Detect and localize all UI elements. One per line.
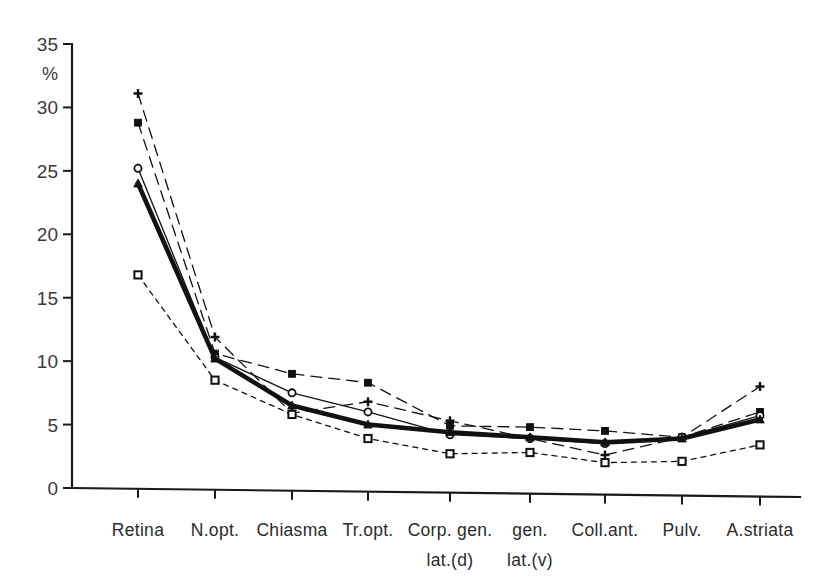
y-axis-tick-labels: 05101520253035 xyxy=(37,34,58,499)
data-point-marker-filled-square xyxy=(135,119,142,126)
data-point-marker-filled-square xyxy=(365,379,372,386)
data-point-marker-filled-square xyxy=(289,370,296,377)
x-axis-category-label: Chiasma xyxy=(256,520,327,540)
series-filled-square xyxy=(135,119,764,440)
x-axis-category-label: Tr.opt. xyxy=(342,520,393,540)
data-point-marker-open-circle xyxy=(134,165,141,172)
data-point-marker-open-circle xyxy=(288,389,295,396)
data-point-marker-open-square xyxy=(526,449,533,456)
series-filled-triangle xyxy=(134,179,764,446)
series-plus xyxy=(134,89,765,460)
data-point-marker-plus xyxy=(134,89,143,98)
x-axis-category-label: Corp. gen. xyxy=(408,520,493,540)
x-axis-category-label: gen. xyxy=(512,520,547,540)
y-axis-tick-label: 35 xyxy=(37,34,58,55)
y-axis-unit-label: % xyxy=(42,64,58,84)
data-point-marker-open-square xyxy=(364,435,371,442)
x-axis-category-labels: RetinaN.opt.ChiasmaTr.opt.Corp. gen.lat.… xyxy=(112,520,794,570)
data-point-marker-open-square xyxy=(211,377,218,384)
x-axis-category-label: Coll.ant. xyxy=(572,520,639,540)
x-axis-category-label: Retina xyxy=(112,520,164,540)
data-point-marker-filled-triangle xyxy=(134,179,142,187)
x-axis xyxy=(72,488,800,497)
x-axis-category-label: N.opt. xyxy=(191,520,240,540)
x-axis-category-label: A.striata xyxy=(727,520,794,540)
x-axis-category-sublabel: lat.(v) xyxy=(507,550,553,570)
line-chart: 05101520253035 % RetinaN.opt.ChiasmaTr.o… xyxy=(0,0,827,588)
data-series-layer xyxy=(134,89,765,466)
y-axis-tick-label: 15 xyxy=(37,288,58,309)
series-open-circle xyxy=(134,165,763,447)
y-axis-tick-label: 5 xyxy=(47,415,58,436)
chart-container: 05101520253035 % RetinaN.opt.ChiasmaTr.o… xyxy=(0,0,827,588)
data-point-marker-open-square xyxy=(601,459,608,466)
y-axis-tick-label: 0 xyxy=(47,478,58,499)
data-point-marker-open-square xyxy=(756,441,763,448)
x-axis-category-label: Pulv. xyxy=(662,520,701,540)
data-point-marker-filled-square xyxy=(527,424,534,431)
y-axis-tick-label: 20 xyxy=(37,224,58,245)
series-path xyxy=(138,123,760,438)
data-point-marker-open-square xyxy=(134,271,141,278)
series-path xyxy=(138,93,760,455)
data-point-marker-plus xyxy=(364,397,373,406)
series-path xyxy=(138,168,760,443)
data-point-marker-open-square xyxy=(446,450,453,457)
x-axis-category-sublabel: lat.(d) xyxy=(427,550,474,570)
data-point-marker-open-square xyxy=(678,458,685,465)
y-axis-unit-label: % xyxy=(42,64,58,84)
series-path xyxy=(138,184,760,443)
data-point-marker-open-circle xyxy=(364,408,371,415)
y-axis-tick-label: 25 xyxy=(37,161,58,182)
y-axis-tick-label: 30 xyxy=(37,97,58,118)
data-point-marker-filled-square xyxy=(602,428,609,435)
data-point-marker-plus xyxy=(756,382,765,391)
data-point-marker-open-square xyxy=(288,411,295,418)
y-axis-tick-label: 10 xyxy=(37,351,58,372)
